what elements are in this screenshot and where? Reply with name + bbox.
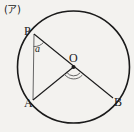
chord-pa <box>33 34 34 100</box>
point-label-o: O <box>69 52 78 64</box>
center-point-dot <box>72 65 76 69</box>
angle-arc-at-o-inner <box>67 72 80 75</box>
angle-label-a: a <box>35 44 40 54</box>
point-label-p: P <box>24 25 31 37</box>
radius-oa <box>33 67 74 100</box>
point-label-b: B <box>114 96 122 108</box>
angle-arc-at-o-outer <box>65 74 83 79</box>
circle-diagram-svg <box>0 0 134 132</box>
section-label: (ア) <box>4 5 20 15</box>
point-label-a: A <box>24 97 33 109</box>
geometry-figure: (ア) P O A B a <box>0 0 134 132</box>
